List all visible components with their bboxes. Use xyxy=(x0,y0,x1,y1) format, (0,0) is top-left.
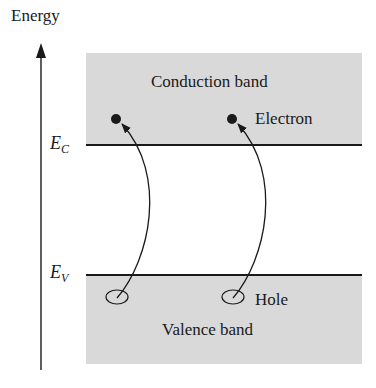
conduction-band-label: Conduction band xyxy=(151,73,268,90)
ev-symbol: E xyxy=(50,262,61,282)
axis-arrowhead-icon xyxy=(36,43,46,58)
transition-arrow-2 xyxy=(233,124,266,298)
energy-axis-label: Energy xyxy=(11,7,60,24)
ec-subscript: C xyxy=(61,142,69,156)
ev-subscript: V xyxy=(61,271,68,285)
valence-edge-label: EV xyxy=(50,263,68,284)
electron-dot-icon xyxy=(111,114,121,124)
electron-dot-icon xyxy=(227,114,237,124)
hole-label: Hole xyxy=(255,291,288,308)
transition-arrow-1 xyxy=(117,124,150,298)
valence-band-label: Valence band xyxy=(162,321,253,338)
ec-symbol: E xyxy=(50,133,61,153)
electron-label: Electron xyxy=(255,110,313,127)
energy-axis xyxy=(36,43,46,370)
conduction-edge-label: EC xyxy=(50,134,69,155)
